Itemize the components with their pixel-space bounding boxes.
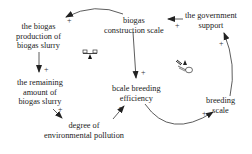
polarity-pollution-to-efficiency: -: [119, 104, 122, 112]
polarity-remaining-to-pollution: +: [58, 106, 63, 114]
polarity-construction-to-production: +: [67, 17, 72, 25]
balance-scale-icon: [83, 50, 97, 59]
node-breeding-efficiency: bcale breeding efficiency: [112, 84, 161, 103]
node-line: efficiency: [112, 94, 161, 104]
node-breeding-scale: breeding scale: [206, 96, 235, 115]
link-construction-to-efficiency: [133, 32, 136, 78]
node-pollution: degree of environmental pollution: [44, 121, 124, 140]
snowball-icon: [176, 60, 193, 73]
node-line: amount of: [17, 88, 63, 98]
node-line: biogas slurry: [17, 97, 63, 107]
node-line: environmental pollution: [44, 131, 124, 141]
node-line: the biogas: [16, 22, 61, 32]
node-line: bcale breeding: [112, 84, 161, 94]
node-line: degree of: [44, 121, 124, 131]
node-biogas-production: the biogas production of biogas slurry: [16, 22, 61, 51]
node-line: scale: [206, 106, 235, 116]
polarity-efficiency-to-breeding-scale: +: [202, 110, 207, 118]
polarity-support-to-construction: +: [175, 22, 180, 30]
polarity-production-to-remaining: +: [44, 66, 49, 74]
node-line: biogas: [104, 16, 164, 26]
node-line: breeding: [206, 96, 235, 106]
link-breeding-scale-to-support: [224, 33, 232, 96]
polarity-construction-to-efficiency: +: [141, 69, 146, 77]
polarity-breeding-scale-to-support: +: [219, 40, 224, 48]
node-remaining-slurry: the remaining amount of biogas slurry: [17, 78, 63, 107]
node-line: the government: [185, 11, 237, 21]
node-government-support: the government support: [185, 11, 237, 30]
node-construction-scale: biogas construction scale: [104, 16, 164, 35]
node-line: construction scale: [104, 26, 164, 36]
node-line: support: [185, 21, 237, 31]
node-line: production of: [16, 32, 61, 42]
node-line: biogas slurry: [16, 41, 61, 51]
node-line: the remaining: [17, 78, 63, 88]
